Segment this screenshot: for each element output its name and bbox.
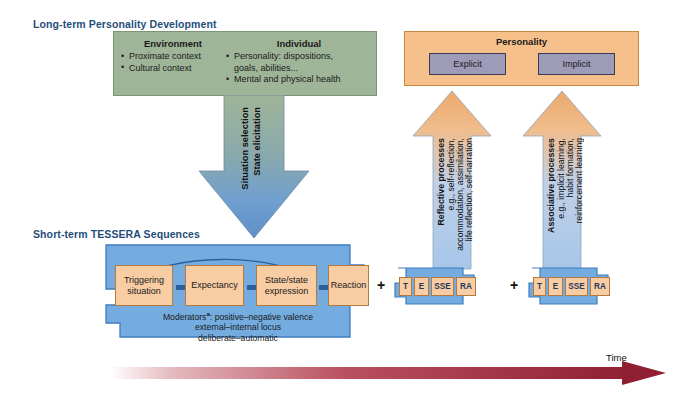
individual-item: Mental and physical health bbox=[226, 74, 372, 85]
seq-line: Expectancy bbox=[189, 280, 240, 291]
individual-column: Individual Personality: dispositions, go… bbox=[226, 38, 372, 86]
reflective-line-3: life reflection, self-narration bbox=[464, 138, 474, 241]
sequence-box-expectancy: Expectancy bbox=[185, 265, 244, 306]
mini-tessera-letters-1: T E SSE RA bbox=[399, 276, 476, 296]
mini-letter-box: RA bbox=[590, 277, 610, 296]
time-axis-arrow bbox=[110, 360, 670, 394]
reflective-heading: Reflective processes bbox=[436, 138, 446, 226]
individual-item-cont: goals, abilities... bbox=[226, 63, 372, 74]
section-title-long-term: Long-term Personality Development bbox=[33, 18, 217, 30]
individual-heading: Individual bbox=[226, 38, 372, 49]
mini-letter-box: SSE bbox=[565, 277, 588, 296]
down-arrow-line-1: Situation selection bbox=[240, 107, 250, 190]
implicit-personality-box: Implicit bbox=[538, 53, 615, 75]
section-title-short-term: Short-term TESSERA Sequences bbox=[33, 228, 200, 240]
associative-processes-labels: Associative processes e.g., implicit lea… bbox=[521, 90, 603, 270]
down-arrow-line-2: State elicitation bbox=[252, 107, 262, 176]
moderator-item: external–internal locus bbox=[108, 322, 368, 333]
time-axis-label: Time bbox=[606, 352, 627, 363]
mini-tessera-letters-2: T E SSE RA bbox=[533, 276, 610, 296]
moderator-item: deliberate–automatic bbox=[108, 333, 368, 344]
situation-selection-arrow-labels: Situation selection State elicitation bbox=[196, 95, 312, 240]
long-term-box: Environment Proximate context Cultural c… bbox=[113, 31, 377, 96]
individual-item: Personality: dispositions, bbox=[226, 51, 372, 62]
plus-sign-1: + bbox=[377, 277, 385, 293]
personality-title: Personality bbox=[405, 36, 638, 47]
associative-line-3: reinforcement learning bbox=[574, 138, 584, 224]
plus-sign-2: + bbox=[510, 277, 518, 293]
diagram-canvas: Long-term Personality Development Short-… bbox=[0, 0, 685, 400]
mini-letter-box: E bbox=[548, 277, 563, 296]
mini-letter-box: T bbox=[399, 277, 412, 296]
sequence-box-state-expression: State/state expression bbox=[256, 265, 317, 306]
seq-line: Reaction bbox=[329, 280, 369, 291]
reflective-processes-labels: Reflective processes e.g., self-reflecti… bbox=[411, 90, 493, 270]
personality-box: Personality Explicit Implicit bbox=[404, 31, 639, 86]
mini-letter-box: E bbox=[414, 277, 429, 296]
environment-item: Cultural context bbox=[121, 63, 225, 74]
seq-line: expression bbox=[263, 286, 311, 297]
explicit-personality-box: Explicit bbox=[429, 53, 506, 75]
mini-letter-box: SSE bbox=[431, 277, 454, 296]
associative-heading: Associative processes bbox=[546, 138, 556, 233]
moderators-first-line: Moderatorsa: positive–negative valence bbox=[108, 309, 368, 322]
seq-line: State/state bbox=[263, 275, 311, 286]
environment-heading: Environment bbox=[121, 38, 225, 49]
moderators-label: Moderators bbox=[163, 312, 206, 322]
environment-item: Proximate context bbox=[121, 51, 225, 62]
seq-line: Triggering bbox=[122, 275, 166, 286]
environment-column: Environment Proximate context Cultural c… bbox=[121, 38, 225, 74]
sequence-box-reaction: Reaction bbox=[328, 265, 369, 306]
mini-letter-box: RA bbox=[456, 277, 476, 296]
seq-line: situation bbox=[122, 286, 166, 297]
mini-letter-box: T bbox=[533, 277, 546, 296]
moderator-item: positive–negative valence bbox=[215, 312, 313, 322]
sequence-box-triggering-situation: Triggering situation bbox=[115, 265, 173, 306]
moderators-block: Moderatorsa: positive–negative valence e… bbox=[108, 309, 368, 344]
